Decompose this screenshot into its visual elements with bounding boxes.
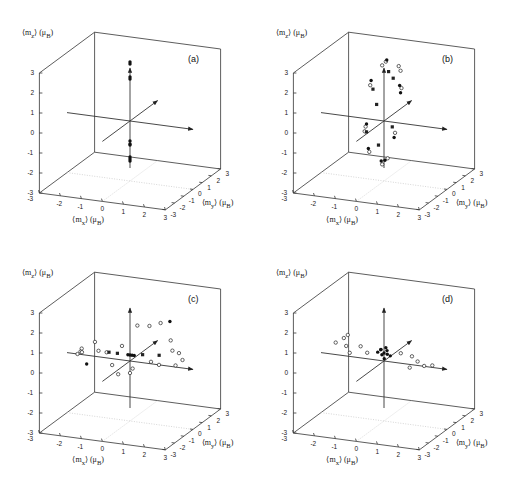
data-point [131,367,134,370]
y-tick-label: 1 [207,424,211,431]
data-point [116,373,119,376]
y-tick-label: 0 [198,430,202,437]
z-tick-label: 0 [30,129,34,136]
z-tick-label: 3 [284,69,288,76]
panel-c: 3210-1-2-3-3-2-10123-3-2-10123⟨mz⟩ (μB)⟨… [0,240,255,480]
x-tick-label: 3 [417,454,421,461]
x-tick-label: -3 [27,195,33,202]
data-point [399,352,402,355]
data-point [116,352,119,355]
data-point [392,136,395,139]
x-tick-label: 1 [121,208,125,215]
data-point [168,320,171,323]
data-point [346,333,349,336]
z-tick-label: 1 [30,349,34,356]
data-point [369,84,372,87]
data-point [397,64,400,67]
z-tick-label: 1 [284,109,288,116]
data-point [375,103,378,106]
data-point [410,355,413,358]
y-tick-label: 1 [461,424,465,431]
data-point [110,363,113,366]
data-point [383,357,386,360]
data-point [393,131,396,134]
data-point [385,349,388,352]
data-point [136,324,139,327]
data-point [133,354,136,357]
x-tick-label: 2 [142,211,146,218]
y-tick-label: 1 [207,184,211,191]
y-axis-label: ⟨my⟩ (μB) [202,438,234,449]
x-tick-label: -1 [77,443,83,450]
z-tick-label: 0 [30,369,34,376]
y-tick-label: -3 [170,211,176,218]
y-tick-label: 2 [470,417,474,424]
data-point [366,351,369,354]
data-point [141,353,144,356]
z-tick-label: -2 [27,169,33,176]
z-tick-label: 0 [284,369,288,376]
y-tick-label: 0 [198,190,202,197]
figure: 3210-1-2-3-3-2-10123-3-2-10123⟨mz⟩ (μB)⟨… [0,0,509,481]
data-point [148,324,151,327]
data-point [345,344,348,347]
data-point [128,159,131,162]
data-point [128,143,131,146]
x-tick-label: 2 [396,451,400,458]
data-point [389,354,392,357]
data-point [398,84,401,87]
x-tick-label: 2 [396,211,400,218]
y-tick-label: -1 [189,197,195,204]
z-tick-label: 2 [30,329,34,336]
data-point [385,58,388,61]
floor-grid-line [321,413,447,430]
y-axis-label: ⟨my⟩ (μB) [202,198,234,209]
floor-grid-line [321,173,447,190]
y-tick-label: 2 [216,417,220,424]
x-tick-label: -1 [77,203,83,210]
y-tick-label: -1 [189,437,195,444]
z-tick-label: 2 [30,89,34,96]
data-point [169,339,172,342]
data-point [177,351,180,354]
y-tick-label: 2 [216,177,220,184]
data-point [380,353,383,356]
data-point [386,353,389,356]
data-point [384,346,387,349]
x-tick-label: -1 [331,443,337,450]
data-point [171,349,174,352]
data-point [76,352,79,355]
data-point [367,147,370,150]
data-point [126,353,129,356]
data-point [369,79,372,82]
data-point [387,70,390,73]
data-point [120,344,123,347]
data-point [386,157,389,160]
x-tick-label: 3 [163,214,167,221]
x-tick-label: -3 [27,435,33,442]
panel-label-b: (b) [442,54,453,64]
z-tick-label: 2 [284,329,288,336]
z-tick-label: 1 [30,109,34,116]
box-edge [349,32,475,49]
z-tick-label: -2 [27,409,33,416]
z-axis-label: ⟨mz⟩ (μB) [22,268,53,279]
box-edge [95,272,221,289]
x-tick-label: -2 [310,200,316,207]
x-axis-label: ⟨mx⟩ (μB) [326,455,358,466]
z-tick-label: -2 [281,169,287,176]
data-point [392,77,395,80]
y-tick-label: -3 [424,451,430,458]
panel-label-c: (c) [188,294,199,304]
data-point [107,351,110,354]
x-tick-label: 0 [100,445,104,452]
z-tick-label: -2 [281,409,287,416]
data-point [368,150,371,153]
y-tick-label: 1 [461,184,465,191]
x-axis-label: ⟨mx⟩ (μB) [326,215,358,226]
x-tick-label: -2 [310,440,316,447]
x-tick-label: -2 [56,440,62,447]
data-point [365,122,368,125]
panel-label-d: (d) [442,294,453,304]
y-tick-label: -2 [180,444,186,451]
